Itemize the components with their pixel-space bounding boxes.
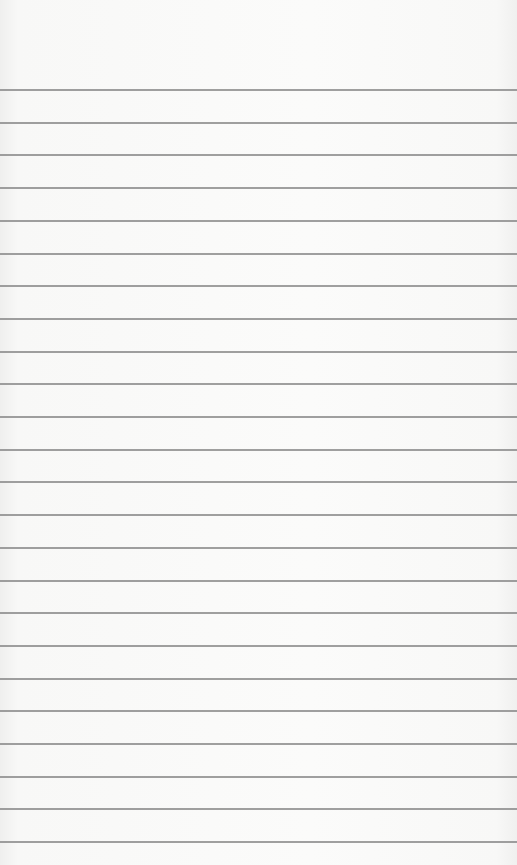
ruled-line bbox=[0, 678, 517, 680]
lined-paper bbox=[0, 0, 517, 865]
ruled-line bbox=[0, 808, 517, 810]
ruled-line bbox=[0, 841, 517, 843]
ruled-line bbox=[0, 645, 517, 647]
ruled-line bbox=[0, 122, 517, 124]
ruled-line bbox=[0, 449, 517, 451]
ruled-line bbox=[0, 187, 517, 189]
ruled-line bbox=[0, 253, 517, 255]
ruled-line bbox=[0, 416, 517, 418]
ruled-line bbox=[0, 547, 517, 549]
ruled-line bbox=[0, 285, 517, 287]
ruled-line bbox=[0, 612, 517, 614]
ruled-line bbox=[0, 383, 517, 385]
ruled-line bbox=[0, 514, 517, 516]
ruled-line bbox=[0, 154, 517, 156]
ruled-line bbox=[0, 318, 517, 320]
ruled-line bbox=[0, 776, 517, 778]
ruled-line bbox=[0, 481, 517, 483]
ruled-line bbox=[0, 743, 517, 745]
ruled-line bbox=[0, 89, 517, 91]
ruled-line bbox=[0, 710, 517, 712]
ruled-line bbox=[0, 580, 517, 582]
ruled-line bbox=[0, 220, 517, 222]
ruled-line bbox=[0, 351, 517, 353]
